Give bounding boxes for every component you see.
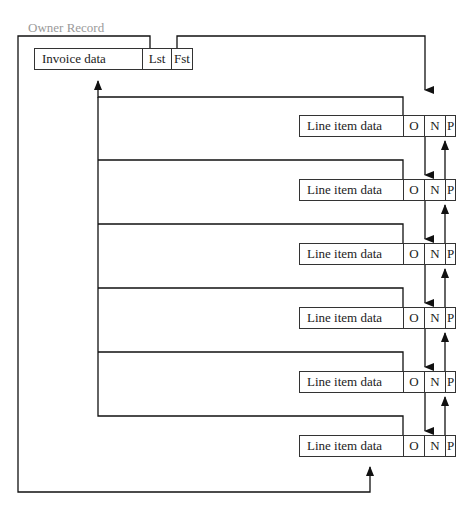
line-item-record: Line item data O N P: [299, 115, 456, 137]
line-item-data-field: Line item data: [300, 180, 403, 200]
next-pointer-field: N: [424, 116, 445, 136]
prior-pointer-field: P: [445, 116, 455, 136]
line-item-record: Line item data O N P: [299, 307, 456, 329]
next-pointer-field: N: [424, 372, 445, 392]
prior-pointer-field: P: [445, 308, 455, 328]
first-pointer-field: Fst: [171, 49, 192, 69]
line-item-record: Line item data O N P: [299, 243, 456, 265]
line-item-data-field: Line item data: [300, 244, 403, 264]
owner-pointer-field: O: [403, 244, 424, 264]
prior-pointer-field: P: [445, 180, 455, 200]
next-pointer-field: N: [424, 244, 445, 264]
next-pointer-field: N: [424, 308, 445, 328]
line-item-data-field: Line item data: [300, 116, 403, 136]
line-item-data-field: Line item data: [300, 308, 403, 328]
owner-pointer-field: O: [403, 308, 424, 328]
line-item-data-field: Line item data: [300, 372, 403, 392]
line-item-data-field: Line item data: [300, 436, 403, 456]
owner-record: Invoice data Lst Fst: [34, 48, 193, 70]
last-pointer-field: Lst: [142, 49, 171, 69]
next-pointer-field: N: [424, 436, 445, 456]
prior-pointer-field: P: [445, 436, 455, 456]
owner-pointer-field: O: [403, 180, 424, 200]
owner-pointer-field: O: [403, 436, 424, 456]
line-item-record: Line item data O N P: [299, 179, 456, 201]
owner-pointer-field: O: [403, 372, 424, 392]
line-item-record: Line item data O N P: [299, 435, 456, 457]
invoice-data-field: Invoice data: [35, 49, 142, 69]
next-pointer-field: N: [424, 180, 445, 200]
line-item-record: Line item data O N P: [299, 371, 456, 393]
prior-pointer-field: P: [445, 372, 455, 392]
prior-pointer-field: P: [445, 244, 455, 264]
owner-pointer-field: O: [403, 116, 424, 136]
